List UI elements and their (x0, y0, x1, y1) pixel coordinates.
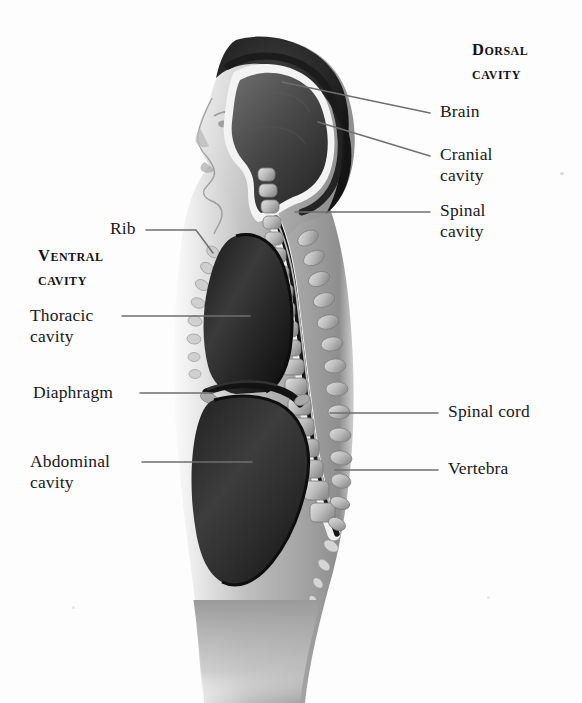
label-spinal-cavity: Spinal cavity (440, 200, 486, 242)
thoracic-cavity (204, 235, 293, 394)
label-rib: Rib (110, 218, 136, 239)
heading-ventral-cavity: Ventral cavity (38, 244, 103, 292)
heading-dorsal-cavity: Dorsal cavity (472, 38, 528, 86)
label-spinal-cord: Spinal cord (448, 401, 530, 422)
label-abdominal-cavity: Abdominal cavity (30, 451, 110, 493)
label-thoracic-cavity: Thoracic cavity (30, 305, 93, 347)
scan-artifact (487, 596, 490, 599)
label-vertebra: Vertebra (448, 458, 508, 479)
scan-artifact (72, 606, 75, 609)
label-diaphragm: Diaphragm (33, 382, 113, 403)
scan-artifact (560, 172, 564, 175)
label-brain: Brain (440, 101, 480, 122)
lower-body (170, 600, 360, 703)
label-cranial-cavity: Cranial cavity (440, 144, 493, 186)
anatomy-figure-page: Dorsal cavity Brain Cranial cavity Spina… (0, 0, 582, 703)
body-cavity-illustration (0, 0, 582, 703)
